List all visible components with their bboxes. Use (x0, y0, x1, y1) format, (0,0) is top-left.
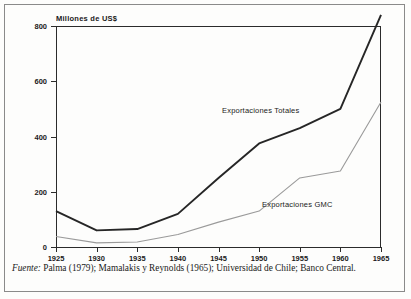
y-tick-label: 0 (43, 243, 47, 252)
y-tick (51, 81, 56, 82)
x-tick (259, 247, 260, 252)
x-tick (381, 247, 382, 252)
y-tick-label: 400 (34, 132, 47, 141)
y-tick-label: 600 (34, 77, 47, 86)
figure-page: Millones de US$ 0200400600800 1925193019… (0, 0, 411, 299)
line-chart: Millones de US$ 0200400600800 1925193019… (0, 0, 411, 299)
y-tick (51, 26, 56, 27)
x-tick (340, 247, 341, 252)
x-tick (219, 247, 220, 252)
source-label: Fuente: (12, 263, 41, 273)
y-tick-label: 200 (34, 187, 47, 196)
y-tick-label: 800 (34, 22, 47, 31)
plot-area (56, 26, 381, 247)
y-axis-title: Millones de US$ (56, 14, 117, 23)
x-tick (56, 247, 57, 252)
series-label-gmc: Exportaciones GMC (262, 200, 333, 209)
y-tick (51, 192, 56, 193)
x-tick (178, 247, 179, 252)
x-tick (97, 247, 98, 252)
y-tick (51, 137, 56, 138)
source-caption: Fuente: Palma (1979); Mamalakis y Reynol… (12, 262, 400, 275)
x-tick (300, 247, 301, 252)
x-tick (137, 247, 138, 252)
series-label-totales: Exportaciones Totales (222, 106, 299, 115)
source-text: Palma (1979); Mamalakis y Reynolds (1965… (41, 263, 356, 273)
